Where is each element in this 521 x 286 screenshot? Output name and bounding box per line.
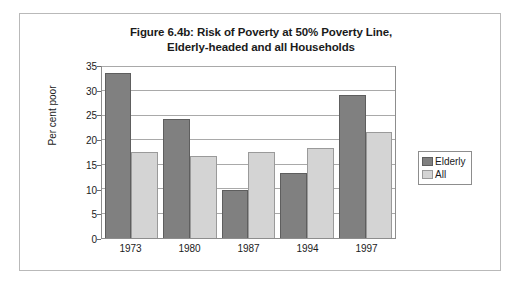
legend-label: All bbox=[435, 168, 446, 181]
y-axis-ticks: 05101520253035 bbox=[67, 66, 97, 239]
bar-elderly-1994[interactable] bbox=[280, 173, 307, 238]
figure-container: Figure 6.4b: Risk of Poverty at 50% Pove… bbox=[19, 13, 501, 271]
x-axis-labels: 19731980198719941997 bbox=[101, 243, 396, 254]
x-axis-tick-label: 1997 bbox=[340, 243, 394, 254]
bar-group bbox=[105, 67, 158, 238]
bar-group bbox=[163, 67, 216, 238]
bar-elderly-1997[interactable] bbox=[339, 95, 366, 238]
bar-all-1994[interactable] bbox=[307, 148, 334, 238]
y-axis-tick-label: 5 bbox=[71, 209, 97, 220]
x-axis-tick-label: 1973 bbox=[104, 243, 158, 254]
bar-all-1997[interactable] bbox=[366, 132, 393, 239]
plot-area bbox=[101, 66, 396, 239]
bar-all-1973[interactable] bbox=[131, 152, 158, 238]
y-axis-title: Per cent poor bbox=[47, 56, 58, 176]
chart-title-line-2: Elderly-headed and all Households bbox=[20, 40, 502, 55]
bar-group bbox=[339, 67, 392, 238]
y-axis-tick-label: 0 bbox=[71, 234, 97, 245]
x-axis-tick-label: 1994 bbox=[281, 243, 335, 254]
y-axis-tick-label: 25 bbox=[71, 110, 97, 121]
y-axis-tick-mark bbox=[97, 239, 101, 240]
chart-title: Figure 6.4b: Risk of Poverty at 50% Pove… bbox=[20, 25, 502, 55]
bar-all-1980[interactable] bbox=[190, 156, 217, 238]
x-axis-tick-label: 1987 bbox=[222, 243, 276, 254]
y-axis-tick-label: 35 bbox=[71, 61, 97, 72]
bar-elderly-1973[interactable] bbox=[105, 73, 132, 238]
x-axis-tick-label: 1980 bbox=[163, 243, 217, 254]
y-axis-tick-label: 30 bbox=[71, 85, 97, 96]
bar-all-1987[interactable] bbox=[248, 152, 275, 238]
y-axis-tick-label: 15 bbox=[71, 159, 97, 170]
chart-legend: ElderlyAll bbox=[418, 151, 472, 185]
bar-group bbox=[280, 67, 333, 238]
legend-item-elderly[interactable]: Elderly bbox=[422, 155, 466, 168]
bar-elderly-1987[interactable] bbox=[222, 190, 249, 238]
bar-group bbox=[222, 67, 275, 238]
legend-item-all[interactable]: All bbox=[422, 168, 466, 181]
y-axis-tick-label: 10 bbox=[71, 184, 97, 195]
legend-swatch-icon bbox=[422, 157, 433, 166]
chart-title-line-1: Figure 6.4b: Risk of Poverty at 50% Pove… bbox=[20, 25, 502, 40]
legend-swatch-icon bbox=[422, 170, 433, 179]
y-axis-tick-label: 20 bbox=[71, 135, 97, 146]
legend-label: Elderly bbox=[435, 155, 466, 168]
bar-groups bbox=[102, 67, 395, 238]
bar-elderly-1980[interactable] bbox=[163, 119, 190, 238]
